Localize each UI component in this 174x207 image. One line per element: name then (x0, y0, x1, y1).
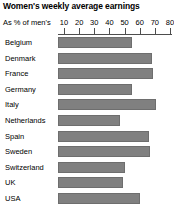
x-tick-mark (140, 28, 141, 34)
bar-row (58, 129, 174, 145)
bar-row (58, 35, 174, 51)
bar (58, 115, 120, 126)
category-label: UK (0, 175, 56, 191)
category-label: Belgium (0, 35, 56, 51)
chart-figure: Women's weekly average earnings As % of … (0, 0, 174, 207)
x-tick-label: 70 (151, 18, 159, 27)
category-label: Denmark (0, 51, 56, 67)
bar-series (58, 35, 174, 207)
bar (58, 84, 132, 95)
x-tick-label: 80 (166, 18, 174, 27)
category-label: USA (0, 191, 56, 207)
x-axis-label: As % of men's (3, 18, 51, 27)
bar (58, 193, 140, 204)
bar-row (58, 51, 174, 67)
plot-area: 1020304050607080 (58, 27, 174, 207)
category-label: Netherlands (0, 113, 56, 129)
bar (58, 131, 149, 142)
category-label: Germany (0, 82, 56, 98)
x-tick-label: 10 (60, 18, 68, 27)
bar (58, 37, 132, 48)
category-label: Spain (0, 129, 56, 145)
bar (58, 53, 152, 64)
x-tick-label: 50 (120, 18, 128, 27)
category-label: Sweden (0, 144, 56, 160)
bar-row (58, 191, 174, 207)
bar (58, 162, 125, 173)
x-tick-mark (170, 28, 171, 34)
bar-row (58, 97, 174, 113)
bar-row (58, 66, 174, 82)
bar-row (58, 160, 174, 176)
x-tick-mark (155, 28, 156, 34)
category-label: France (0, 66, 56, 82)
bar (58, 177, 123, 188)
bar-row (58, 113, 174, 129)
bar (58, 68, 153, 79)
x-tick-mark (94, 28, 95, 34)
x-tick-mark (79, 28, 80, 34)
bar-row (58, 82, 174, 98)
bar (58, 99, 156, 110)
category-label: Switzerland (0, 160, 56, 176)
category-axis-labels: Belgium Denmark France Germany Italy Net… (0, 35, 56, 207)
bar-row (58, 144, 174, 160)
chart-title: Women's weekly average earnings (3, 1, 140, 11)
category-label: Italy (0, 97, 56, 113)
x-tick-label: 40 (105, 18, 113, 27)
x-tick-mark (109, 28, 110, 34)
x-tick-mark (125, 28, 126, 34)
x-tick-label: 30 (90, 18, 98, 27)
bar-row (58, 175, 174, 191)
x-tick-label: 20 (75, 18, 83, 27)
x-tick-label: 60 (136, 18, 144, 27)
x-tick-mark (64, 28, 65, 34)
bar (58, 146, 150, 157)
